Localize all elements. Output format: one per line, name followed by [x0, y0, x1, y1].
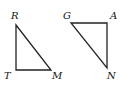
label-t: T: [4, 70, 12, 81]
label-n: N: [106, 70, 117, 81]
label-r: R: [10, 10, 19, 21]
label-g: G: [63, 10, 71, 21]
diagram-canvas: R T M G A N: [0, 0, 130, 89]
triangle-rtm: [16, 25, 51, 70]
label-a: A: [109, 10, 117, 21]
label-m: M: [51, 70, 63, 81]
triangle-gan: [71, 23, 107, 68]
